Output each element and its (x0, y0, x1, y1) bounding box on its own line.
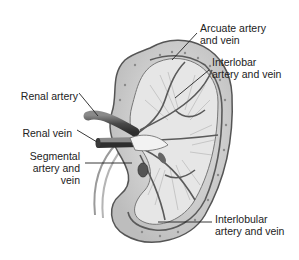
label-segmental-artery-and-vein: Segmental artery and vein (20, 150, 80, 186)
label-arcuate-artery-and-vein: Arcuate artery and vein (200, 22, 266, 46)
label-renal-artery: Renal artery (14, 90, 78, 102)
label-interlobular-artery-and-vein: Interlobular artery and vein (215, 213, 284, 237)
kidney-diagram: Arcuate artery and vein Interlobar arter… (0, 0, 299, 260)
label-renal-vein: Renal vein (14, 127, 72, 139)
label-interlobar-artery-and-vein: Interlobar artery and vein (212, 56, 281, 80)
